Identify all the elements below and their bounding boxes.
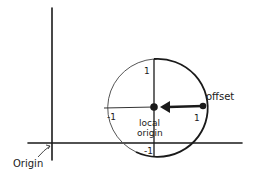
offset-vector: offset — [160, 91, 234, 113]
offset-arrow-shaft — [168, 106, 203, 107]
local-x-axis — [104, 107, 154, 108]
origin-pointer-arrow-icon — [38, 146, 50, 157]
local-origin: local origin — [137, 103, 163, 138]
local-origin-dot — [150, 103, 158, 111]
tick-bottom: -1 — [144, 146, 153, 156]
local-origin-label-line1: local — [139, 118, 160, 128]
global-axes — [28, 8, 242, 160]
tick-top: 1 — [144, 66, 150, 76]
offset-label: offset — [206, 91, 234, 102]
tick-right: 1 — [194, 113, 200, 123]
local-origin-label-line2: origin — [137, 128, 163, 138]
origin-label: Origin — [13, 158, 43, 169]
offset-point-dot — [200, 103, 207, 110]
offset-arrowhead-icon — [160, 101, 170, 113]
tick-left: -1 — [107, 112, 116, 122]
diagram-canvas: Origin 1 -1 1 -1 offset local origin — [0, 0, 255, 178]
origin-annotation: Origin — [13, 145, 50, 169]
